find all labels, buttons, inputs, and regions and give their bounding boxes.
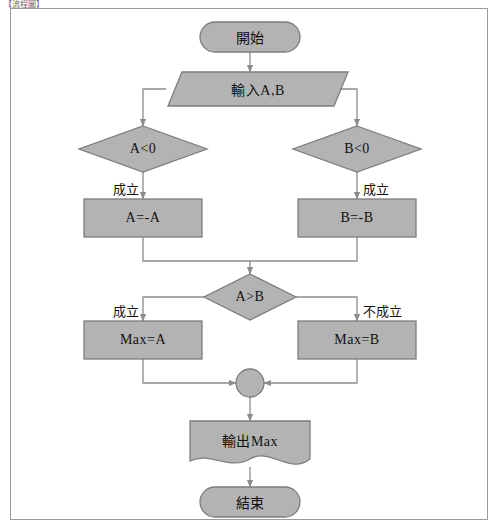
node-proca-shape: [84, 199, 202, 237]
node-start-shape: [200, 22, 300, 52]
flowchart-svg: [11, 9, 489, 521]
diagram-frame: 開始 輸入A,B A<0 B<0 A=-A B=-B A>B Max=A Max…: [10, 8, 488, 520]
edge-proca-decab: [143, 237, 250, 274]
edge-maxa-merge: [143, 359, 236, 383]
node-maxa-shape: [84, 321, 202, 359]
diagram-canvas: 開始 輸入A,B A<0 B<0 A=-A B=-B A>B Max=A Max…: [11, 9, 489, 521]
edge-label-deca-true: 成立: [113, 179, 139, 198]
flowchart-page: 【流程圖】: [0, 0, 498, 529]
node-merge-shape: [236, 369, 264, 397]
edge-maxb-merge: [264, 359, 357, 383]
edge-procb-merge: [250, 237, 357, 261]
node-output-shape: [190, 421, 310, 464]
edge-decab-maxa: [143, 297, 204, 321]
node-end-shape: [200, 487, 300, 517]
edge-label-decb-true: 成立: [363, 179, 389, 198]
edge-label-decab-true: 成立: [113, 301, 139, 320]
node-deca-shape: [79, 126, 207, 172]
node-procb-shape: [298, 199, 416, 237]
edge-label-decab-false: 不成立: [363, 301, 402, 320]
node-input-shape: [168, 72, 348, 106]
edge-input-deca: [143, 89, 166, 126]
edge-decab-maxb: [296, 297, 357, 321]
node-maxb-shape: [298, 321, 416, 359]
node-decb-shape: [293, 126, 421, 172]
node-decab-shape: [204, 274, 296, 320]
